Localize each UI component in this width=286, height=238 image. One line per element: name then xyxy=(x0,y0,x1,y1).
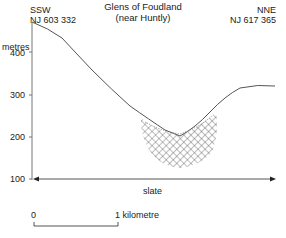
drift-deposit-hatch xyxy=(141,112,217,168)
ground-profile-line xyxy=(32,22,275,136)
scale-bar xyxy=(34,222,118,226)
slate-label: slate xyxy=(143,186,162,196)
cross-section-drawing xyxy=(0,0,286,238)
scale-end-label: 1 kilometre xyxy=(115,210,159,220)
scale-start-label: 0 xyxy=(31,210,36,220)
